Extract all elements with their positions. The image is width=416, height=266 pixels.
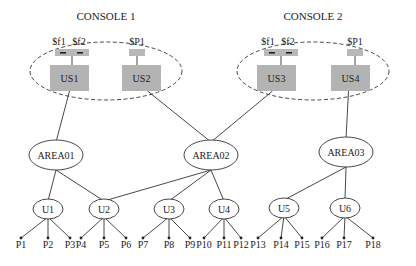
edge-US4-AREA03: [346, 91, 349, 139]
point-label: P6: [121, 239, 132, 250]
point-label: P13: [250, 239, 266, 250]
minus-icon: [60, 52, 66, 54]
edge-AREA02-U3: [169, 170, 211, 201]
edge-AREA01-U1: [48, 170, 56, 201]
edge-AREA01-U2: [56, 170, 104, 201]
unit-label: U4: [218, 204, 230, 215]
point-label: P17: [336, 239, 352, 250]
edge-U4-P12: [224, 217, 241, 238]
station-us4: [331, 49, 370, 91]
edge-U2-P6: [104, 217, 126, 238]
edge-AREA03-U6: [345, 167, 346, 200]
edge-U3-P9: [169, 217, 190, 238]
edge-U5-P15: [284, 216, 302, 238]
station-us2: [122, 49, 161, 91]
station-label: US4: [342, 73, 360, 84]
minus-icon: [286, 52, 292, 54]
area-label: AREA02: [192, 150, 229, 161]
edge-U6-P17: [344, 216, 345, 238]
station-us3: [257, 49, 298, 91]
edge-U3-P7: [143, 217, 169, 238]
console-title: CONSOLE 1: [77, 10, 136, 22]
edge-U6-P18: [345, 216, 373, 238]
edge-U6-P16: [322, 216, 345, 238]
station-us1: [50, 49, 89, 91]
edge-U5-P13: [258, 216, 284, 238]
point-label: P10: [196, 239, 212, 250]
edge-US2-AREA02: [148, 91, 212, 142]
point-label: P1: [16, 239, 27, 250]
point-label: P4: [76, 239, 87, 250]
tag-label: $f1: [261, 36, 274, 47]
edge-U5-P14: [281, 216, 284, 238]
area-label: AREA01: [37, 150, 74, 161]
console-title: CONSOLE 2: [284, 10, 343, 22]
tag-bar: [347, 49, 363, 56]
unit-label: U5: [278, 203, 290, 214]
point-label: P12: [233, 239, 249, 250]
tag-label: $P1: [129, 36, 145, 47]
point-label: P16: [314, 239, 330, 250]
station-label: US2: [133, 73, 151, 84]
station-label: US1: [61, 73, 79, 84]
edge-US3-AREA02: [211, 91, 273, 142]
edge-U2-P4: [81, 217, 104, 238]
point-label: P2: [43, 239, 54, 250]
tag-label: $f1: [52, 36, 65, 47]
tag-label: $f2: [281, 36, 294, 47]
unit-label: U1: [42, 204, 54, 215]
point-label: P15: [294, 239, 310, 250]
tag-label: $f2: [72, 36, 85, 47]
edge-AREA02-U4: [211, 170, 224, 201]
point-label: P18: [365, 239, 381, 250]
tag-label: $P1: [347, 36, 363, 47]
point-label: P8: [164, 239, 175, 250]
point-label: P9: [185, 239, 196, 250]
edge-AREA03-U5: [284, 167, 346, 200]
unit-label: U6: [339, 203, 351, 214]
minus-icon: [77, 52, 83, 54]
network-topology-diagram: CONSOLE 1CONSOLE 2$f1$f2US1$P1US2$f1$f2U…: [0, 0, 416, 266]
minus-icon: [269, 52, 275, 54]
tag-bar: [129, 49, 145, 56]
edge-US1-AREA01: [56, 91, 70, 142]
station-label: US3: [268, 73, 286, 84]
edge-AREA02-U2: [104, 170, 211, 201]
point-label: P3: [65, 239, 76, 250]
unit-label: U3: [163, 204, 175, 215]
point-label: P5: [99, 239, 110, 250]
edge-U4-P10: [204, 217, 224, 238]
area-label: AREA03: [327, 147, 364, 158]
edge-U1-P1: [21, 217, 48, 238]
unit-label: U2: [98, 204, 110, 215]
point-label: P11: [216, 239, 231, 250]
point-label: P14: [273, 239, 289, 250]
point-label: P7: [138, 239, 149, 250]
edge-U1-P3: [48, 217, 70, 238]
